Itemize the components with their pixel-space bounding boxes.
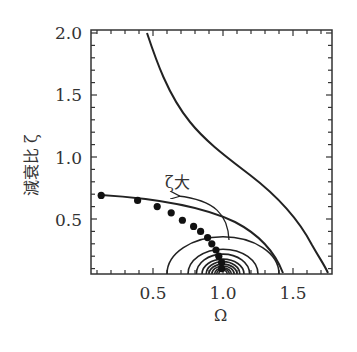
data-point [218, 265, 225, 272]
data-point [190, 223, 197, 230]
y-tick-label: 1.5 [55, 85, 82, 105]
outer-boundary-curve [147, 33, 328, 273]
data-point [204, 234, 211, 241]
y-tick-label: 1.0 [55, 148, 82, 168]
y-tick-label: 2.0 [55, 23, 82, 43]
data-point [179, 217, 186, 224]
data-point [134, 197, 141, 204]
y-axis-title: 減衰比 ζ [22, 134, 41, 196]
data-point [215, 253, 222, 260]
x-tick-label: 1.0 [209, 283, 236, 303]
x-tick-label: 1.5 [279, 283, 306, 303]
x-axis-title: Ω [214, 306, 227, 325]
y-axis-ticks [91, 33, 332, 269]
optimal-points [98, 192, 226, 272]
data-point [218, 259, 225, 266]
annotation-label: ζ大 [165, 173, 190, 192]
data-point [208, 240, 215, 247]
chart: 0.5 1.0 1.5 2.0 1.5 1.0 0.5 Ω 減衰比 ζ ζ大 [0, 0, 357, 352]
data-point [212, 246, 219, 253]
x-tick-label: 0.5 [139, 283, 166, 303]
y-tick-label: 0.5 [55, 210, 82, 230]
data-point [98, 192, 105, 199]
data-point [197, 228, 204, 235]
data-point [168, 209, 175, 216]
data-point [154, 203, 161, 210]
